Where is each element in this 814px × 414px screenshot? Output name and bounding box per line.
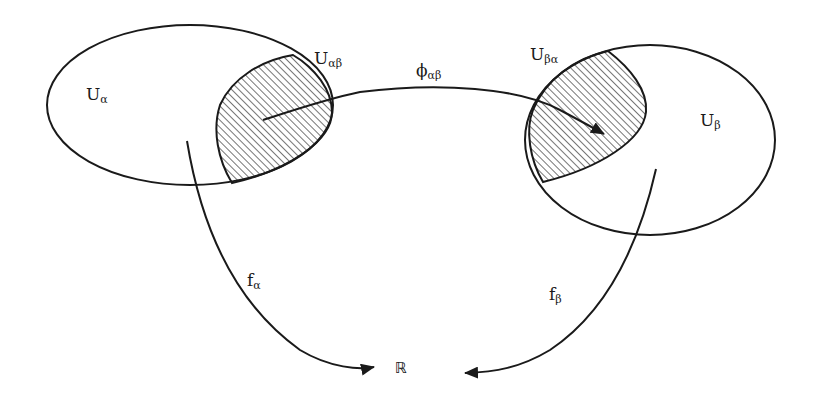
label-subscript: αβ [428,69,442,82]
label-base: U [530,44,544,64]
f-alpha-arrow [187,141,374,368]
label-base: U [314,48,328,68]
label-subscript: α [100,93,107,106]
label-U-beta: Uβ [700,112,721,129]
overlap-region-alphabeta [216,55,332,183]
label-subscript: β [555,293,561,306]
label-subscript: α [253,279,260,292]
label-phi-alphabeta: ϕαβ [416,62,441,79]
label-f-beta: fβ [549,286,562,303]
label-base: ϕ [416,60,428,80]
label-reals: ℝ [395,361,407,376]
chart-diagram [0,0,814,414]
label-U-alpha: Uα [86,86,108,103]
label-U-betaalpha: Uβα [530,46,558,63]
label-base: U [86,84,100,104]
f-beta-arrow [465,169,656,373]
overlap-region-betaalpha [529,51,646,182]
label-base: U [700,110,714,130]
label-f-alpha: fα [247,272,261,289]
label-subscript: αβ [328,57,342,70]
label-subscript: βα [544,53,558,66]
label-U-alphabeta: Uαβ [314,50,342,67]
label-subscript: β [714,119,720,132]
